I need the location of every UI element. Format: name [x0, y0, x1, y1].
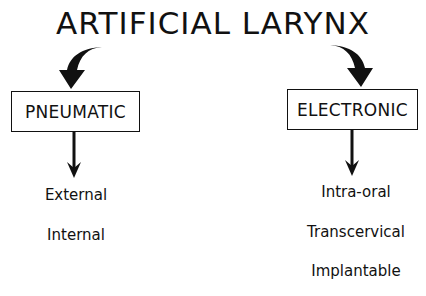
electronic-item-transcervical: Transcervical [286, 223, 426, 241]
electronic-item-intra-oral: Intra-oral [286, 183, 426, 201]
curved-arrow-right-icon [328, 44, 374, 88]
electronic-label: ELECTRONIC [297, 100, 408, 120]
pneumatic-item-external: External [6, 186, 146, 204]
diagram-title: ARTIFICIAL LARYNX [0, 6, 426, 40]
arrow-down-right-icon [344, 130, 360, 178]
pneumatic-box: PNEUMATIC [11, 91, 140, 132]
curved-arrow-left-icon [58, 46, 104, 90]
arrow-down-left-icon [66, 132, 82, 180]
pneumatic-label: PNEUMATIC [25, 102, 126, 122]
electronic-item-implantable: Implantable [286, 262, 426, 280]
electronic-box: ELECTRONIC [287, 89, 418, 130]
pneumatic-item-internal: Internal [6, 226, 146, 244]
